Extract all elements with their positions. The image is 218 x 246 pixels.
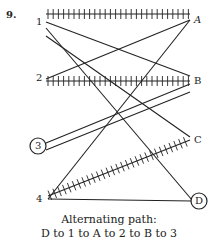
caption-line-1: Alternating path: xyxy=(0,213,218,226)
node-b-label: B xyxy=(194,75,201,86)
caption-line-2: D to 1 to A to 2 to B to 3 xyxy=(0,227,218,240)
node-a-label: A xyxy=(194,14,201,25)
node-3-label: 3 xyxy=(35,140,41,151)
node-d-label: D xyxy=(195,195,203,206)
bipartite-matching-diagram: 9. 1 2 3 4 A B C D Alternating path: D t… xyxy=(0,0,218,246)
node-2-label: 2 xyxy=(36,72,42,83)
graph-canvas xyxy=(0,0,218,246)
node-1-label: 1 xyxy=(36,16,42,27)
node-4-label: 4 xyxy=(36,193,42,204)
node-c-label: C xyxy=(194,134,202,145)
